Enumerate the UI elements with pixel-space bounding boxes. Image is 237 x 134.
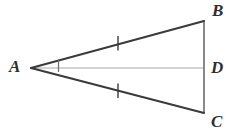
triangle-figure <box>0 0 237 134</box>
vertex-label-b: B <box>212 2 223 19</box>
vertex-label-d: D <box>211 59 223 76</box>
vertex-label-c: C <box>211 113 222 130</box>
vertex-label-a: A <box>9 58 20 75</box>
geometry-diagram: A B D C <box>0 0 237 134</box>
